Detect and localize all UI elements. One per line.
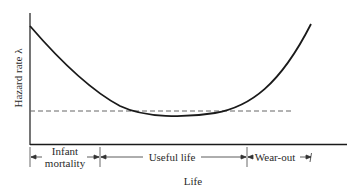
diagram-canvas: Hazard rate λ Infant mortality Useful li… (0, 0, 363, 194)
x-axis-label: Life (184, 175, 202, 187)
phase-label-infant-line2: mortality (45, 157, 86, 169)
bathtub-curve-diagram: Hazard rate λ Infant mortality Useful li… (0, 0, 363, 194)
y-axis-label: Hazard rate λ (12, 48, 24, 108)
arrow-left-icon (31, 155, 36, 159)
arrow-right-icon (241, 155, 246, 159)
phase-label-infant-line1: Infant (52, 145, 78, 157)
arrow-right-icon (94, 155, 99, 159)
phase-label-wear-out: Wear-out (255, 151, 295, 163)
hazard-rate-curve (30, 24, 311, 116)
arrow-left-icon (101, 155, 106, 159)
phase-label-useful-life: Useful life (149, 151, 196, 163)
